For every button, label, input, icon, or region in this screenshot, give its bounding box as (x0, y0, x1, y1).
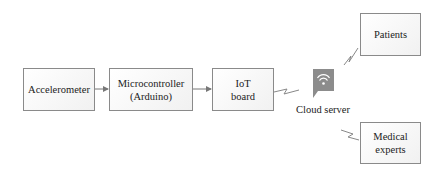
microcontroller-node: Microcontroller (Arduino) (109, 68, 193, 111)
medical-experts-label-line2: experts (373, 143, 407, 156)
iot-board-label-line2: board (231, 90, 255, 103)
microcontroller-label-line2: (Arduino) (118, 90, 184, 103)
accelerometer-label: Accelerometer (28, 83, 90, 96)
wifi-icon (313, 69, 334, 98)
wireless-cloud-to-patients-icon (344, 48, 358, 65)
patients-node: Patients (360, 13, 421, 56)
patients-label: Patients (374, 28, 407, 41)
iot-board-label-line1: IoT (231, 77, 255, 90)
medical-experts-node: Medical experts (360, 122, 421, 164)
wireless-iot-to-cloud-icon (274, 89, 299, 94)
wireless-cloud-to-experts-icon (341, 130, 359, 140)
iot-board-node: IoT board (212, 68, 274, 111)
accelerometer-node: Accelerometer (23, 68, 95, 111)
cloud-server-label: Cloud server (296, 104, 350, 115)
microcontroller-label-line1: Microcontroller (118, 77, 184, 90)
medical-experts-label-line1: Medical (373, 130, 407, 143)
